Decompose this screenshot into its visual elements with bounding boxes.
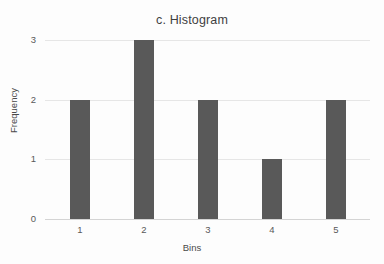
bar: [326, 100, 346, 219]
bar: [198, 100, 218, 219]
x-axis-tick-label: 3: [188, 224, 228, 235]
x-axis-tick-label: 4: [252, 224, 292, 235]
plot-area: [45, 40, 370, 219]
gridline: [45, 40, 370, 41]
bar: [70, 100, 90, 219]
y-axis-tick-label: 3: [16, 35, 36, 45]
histogram-chart: c. Histogram Frequency 0123 12345 Bins: [0, 0, 384, 264]
y-axis-title: Frequency: [8, 76, 19, 146]
x-axis-title: Bins: [0, 242, 384, 253]
x-axis-tick-label: 5: [316, 224, 356, 235]
bar: [262, 159, 282, 219]
bar: [134, 40, 154, 219]
x-axis-tick-label: 2: [124, 224, 164, 235]
axis-baseline: [45, 219, 370, 220]
y-axis-tick-label: 2: [16, 95, 36, 105]
x-axis-tick-label: 1: [60, 224, 100, 235]
y-axis-tick-label: 1: [16, 154, 36, 164]
y-axis-tick-label: 0: [16, 214, 36, 224]
chart-title: c. Histogram: [0, 13, 384, 27]
